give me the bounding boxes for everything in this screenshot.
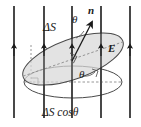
normal-vector-label: n — [88, 4, 94, 16]
delta-s-label: ΔS — [42, 20, 56, 34]
flux-diagram-canvas: ΔS θ n E θ ΔS cosθ — [0, 0, 141, 127]
electric-flux-figure: ΔS θ n E θ ΔS cosθ — [0, 0, 141, 127]
theta-bottom-label: θ — [79, 68, 85, 80]
projection-label: ΔS cosθ — [41, 106, 79, 118]
field-label: E — [107, 42, 115, 54]
theta-top-label: θ — [72, 13, 78, 25]
